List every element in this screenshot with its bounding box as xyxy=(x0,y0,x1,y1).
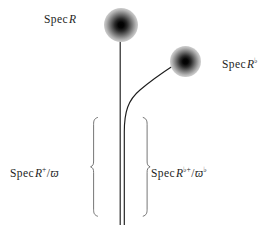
label-spec-r-flat-plus-spec: Spec xyxy=(151,167,175,179)
label-spec-r-flat-plus-uniformizer-superscript: ♭ xyxy=(203,165,207,174)
label-spec-r: Spec R xyxy=(44,14,76,26)
branch-curve-line xyxy=(124,66,173,226)
label-spec-r-flat-spec: Spec xyxy=(222,58,246,70)
label-spec-r-flat: Spec R♭ xyxy=(222,57,258,70)
diagram-line-art xyxy=(0,0,277,225)
label-spec-r-plus-spec: Spec xyxy=(10,167,34,179)
label-spec-r-flat-ring: R xyxy=(247,58,254,70)
label-spec-r-flat-plus-uniformizer: ϖ xyxy=(195,167,203,179)
label-spec-r-spec: Spec xyxy=(44,13,68,25)
label-spec-r-ring: R xyxy=(69,13,76,25)
label-spec-r-flat-plus-ring: R xyxy=(176,167,183,179)
label-spec-r-plus-uniformizer: ϖ xyxy=(50,167,58,179)
left-brace xyxy=(91,118,98,217)
right-brace xyxy=(143,118,150,217)
label-spec-r-flat-plus-quotient: Spec R♭+/ϖ♭ xyxy=(151,166,207,179)
label-spec-r-plus-quotient: Spec R+/ϖ xyxy=(10,166,59,179)
label-spec-r-flat-plus-superscript: ♭+ xyxy=(183,165,191,174)
label-spec-r-plus-ring: R xyxy=(35,167,42,179)
diagram-canvas: Spec R Spec R♭ Spec R+/ϖ Spec R♭+/ϖ♭ xyxy=(0,0,277,225)
label-spec-r-flat-superscript: ♭ xyxy=(254,56,258,65)
